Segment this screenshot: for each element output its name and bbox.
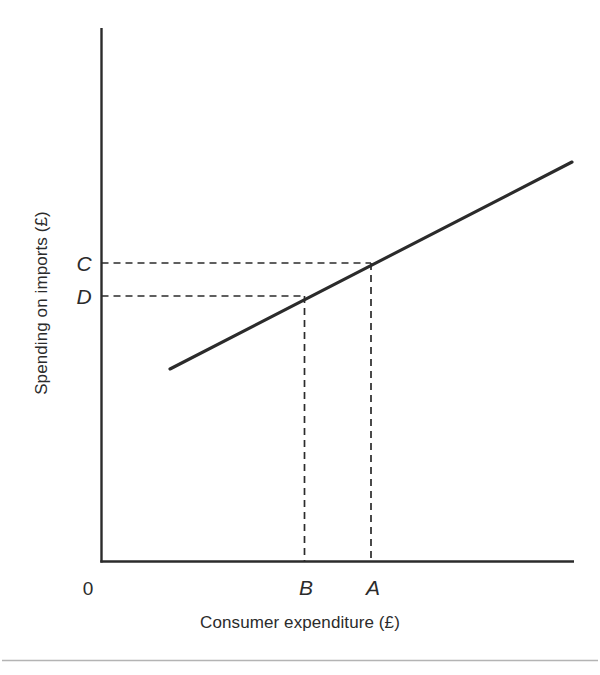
x-axis-title: Consumer expenditure (£) [200, 614, 400, 631]
chart-canvas [0, 0, 600, 675]
tick-label-d: D [76, 286, 91, 307]
tick-label-b: B [299, 577, 313, 598]
tick-label-c: C [76, 253, 91, 274]
origin-label: 0 [83, 579, 94, 598]
figure-container: Spending on imports (£) Consumer expendi… [0, 0, 600, 675]
tick-label-a: A [366, 577, 380, 598]
